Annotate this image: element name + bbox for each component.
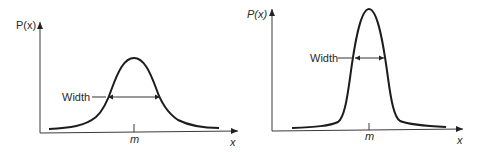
right-width-label: Width	[310, 52, 338, 64]
figure-canvas: P(x) x m Width P(x) x m Width	[0, 0, 478, 152]
right-center-label: m	[365, 130, 374, 142]
right-y-label: P(x)	[247, 8, 268, 20]
left-center-label: m	[130, 133, 139, 145]
left-chart: P(x) x m Width	[16, 19, 238, 148]
right-distribution-curve	[292, 9, 446, 128]
left-x-label: x	[229, 136, 236, 148]
left-width-label: Width	[62, 91, 90, 103]
left-y-label: P(x)	[16, 19, 36, 31]
right-x-label: x	[456, 134, 463, 146]
right-chart: P(x) x m Width	[247, 8, 463, 146]
